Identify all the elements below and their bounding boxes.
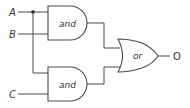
gate-label-and-top: and (59, 19, 76, 29)
wire-and2-or (87, 67, 120, 84)
logic-circuit-diagram: A B C and and or O (0, 0, 190, 108)
wire-and1-or (87, 23, 120, 48)
input-label-b: B (9, 29, 16, 40)
gate-label-and-bottom: and (59, 80, 76, 90)
gate-label-or: or (133, 51, 144, 61)
input-label-c: C (9, 89, 16, 100)
input-label-a: A (8, 7, 16, 18)
output-label-o: O (173, 51, 181, 62)
wire-a-branch (33, 12, 48, 73)
